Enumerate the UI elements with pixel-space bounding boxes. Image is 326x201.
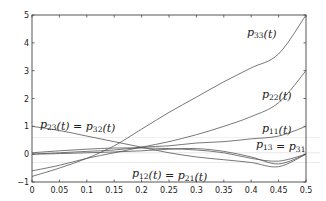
x-tick-label: 0.2	[135, 186, 148, 195]
x-tick-label: 0.1	[80, 186, 93, 195]
chart: 00.050.10.150.20.250.30.350.40.450.5−101…	[0, 0, 326, 201]
x-tick-label: 0.05	[50, 186, 68, 195]
curve-label-4: p23(t) = p32(t)	[40, 118, 115, 135]
x-tick-label: 0.3	[190, 186, 203, 195]
x-tick-label: 0.5	[300, 186, 313, 195]
y-tick-label: 3	[24, 67, 29, 76]
curve-label-2: p22(t)	[262, 88, 292, 103]
plot-area: 00.050.10.150.20.250.30.350.40.450.5−101…	[17, 11, 320, 195]
curve-label-5: p12(t) = p21(t)	[132, 167, 207, 184]
x-tick-label: 0	[29, 186, 34, 195]
x-tick-label: 0.35	[215, 186, 233, 195]
y-tick-label: 4	[24, 39, 29, 48]
curve-label-3: p11(t)	[262, 122, 292, 137]
curve-label-6: p13 = p31	[256, 138, 305, 154]
x-tick-label: 0.15	[105, 186, 123, 195]
x-tick-label: 0.4	[245, 186, 258, 195]
y-tick-label: 0	[24, 150, 29, 159]
curve-label-1: p33(t)	[247, 26, 277, 41]
y-tick-label: 5	[24, 11, 29, 20]
x-tick-label: 0.45	[270, 186, 288, 195]
y-tick-label: −1	[17, 178, 29, 187]
y-tick-label: 2	[24, 95, 29, 104]
y-tick-label: 1	[24, 122, 29, 131]
x-tick-label: 0.25	[160, 186, 178, 195]
